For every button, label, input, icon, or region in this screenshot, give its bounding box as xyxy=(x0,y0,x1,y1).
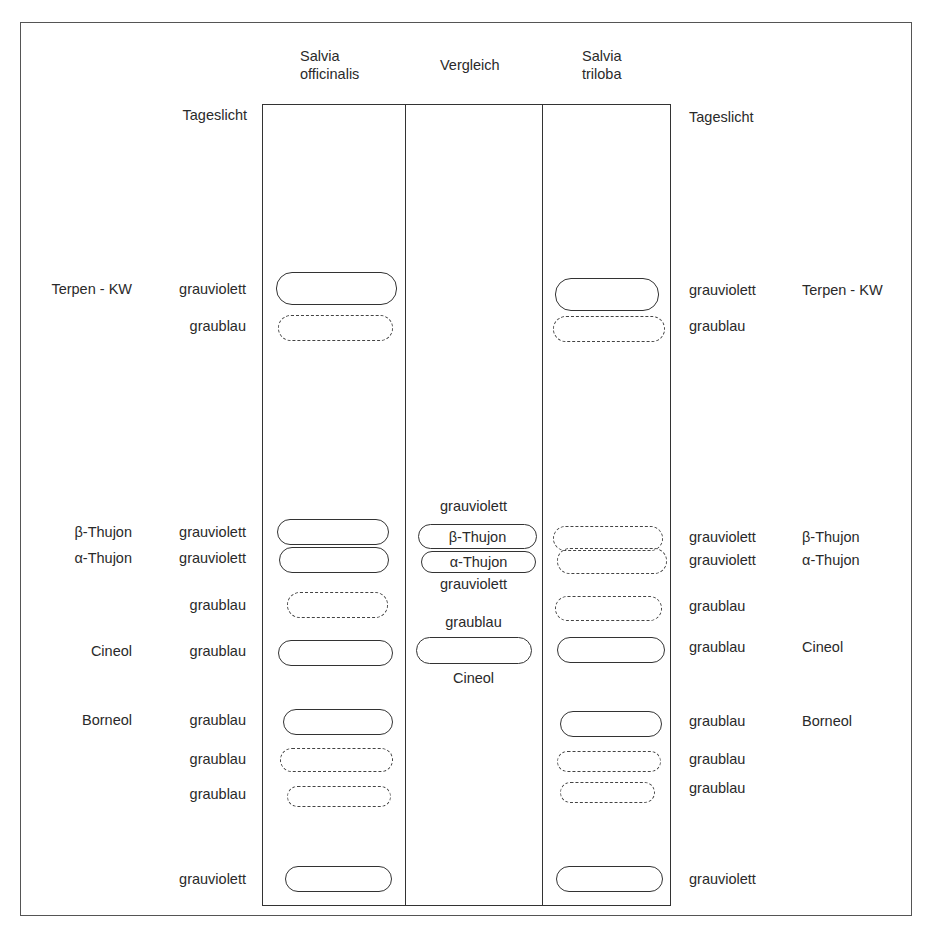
color-label-right-2: graublau xyxy=(689,318,745,335)
lane-header-officinalis-line2: officinalis xyxy=(300,66,359,83)
color-label-left-3: grauviolett xyxy=(140,524,246,541)
lane-header-triloba-line1: Salvia xyxy=(582,48,622,65)
color-label-left-2: graublau xyxy=(140,318,246,335)
substance-terpen-right: Terpen - KW xyxy=(802,282,883,299)
reference-spot-beta-thujon: β-Thujon xyxy=(418,524,537,549)
color-label-right-7: graublau xyxy=(689,713,745,730)
color-label-right-8: graublau xyxy=(689,751,745,768)
spot-triloba-graublau-2 xyxy=(555,596,662,621)
spot-triloba-grauviolett-bottom xyxy=(556,866,663,892)
reference-spot-alpha-thujon: α-Thujon xyxy=(421,551,536,573)
substance-cineol-left: Cineol xyxy=(20,643,132,660)
detection-label-left: Tageslicht xyxy=(130,107,247,124)
color-label-left-1: grauviolett xyxy=(140,281,246,298)
spot-officinalis-graublau-2 xyxy=(287,592,388,618)
lane-header-triloba-line2: triloba xyxy=(582,66,622,83)
spot-triloba-borneol xyxy=(560,711,662,737)
spot-officinalis-graublau-4 xyxy=(287,786,391,807)
detection-label-right: Tageslicht xyxy=(689,109,753,126)
substance-beta-thujon-right: β-Thujon xyxy=(802,529,860,546)
spot-officinalis-alpha-thujon xyxy=(279,547,389,573)
color-label-right-9: graublau xyxy=(689,780,745,797)
lane-divider-2 xyxy=(542,104,543,906)
reference-label-above: grauviolett xyxy=(405,498,542,515)
lane-header-officinalis-line1: Salvia xyxy=(300,48,340,65)
spot-officinalis-borneol xyxy=(283,709,393,735)
reference-cineol-label: Cineol xyxy=(405,670,542,687)
reference-spot-cineol xyxy=(416,637,532,664)
spot-triloba-graublau-4 xyxy=(560,782,655,803)
substance-terpen-left: Terpen - KW xyxy=(20,281,132,298)
substance-borneol-left: Borneol xyxy=(20,712,132,729)
color-label-right-3: grauviolett xyxy=(689,529,756,546)
color-label-right-10: grauviolett xyxy=(689,871,756,888)
color-label-left-5: graublau xyxy=(140,597,246,614)
spot-officinalis-terpen xyxy=(276,272,397,305)
color-label-left-9: graublau xyxy=(140,786,246,803)
substance-alpha-thujon-right: α-Thujon xyxy=(802,552,860,569)
spot-officinalis-grauviolett-bottom xyxy=(285,866,392,892)
color-label-left-7: graublau xyxy=(140,712,246,729)
color-label-left-8: graublau xyxy=(140,751,246,768)
reference-label-below: grauviolett xyxy=(405,576,542,593)
spot-triloba-alpha-thujon xyxy=(557,548,667,574)
color-label-right-1: grauviolett xyxy=(689,282,756,299)
reference-spot-alpha-thujon-label: α-Thujon xyxy=(450,554,508,570)
spot-officinalis-graublau-1 xyxy=(278,315,393,341)
spot-officinalis-cineol xyxy=(278,640,393,666)
color-label-left-6: graublau xyxy=(140,643,246,660)
substance-borneol-right: Borneol xyxy=(802,713,852,730)
spot-officinalis-beta-thujon xyxy=(277,519,389,545)
color-label-right-4: grauviolett xyxy=(689,552,756,569)
spot-triloba-terpen xyxy=(555,278,659,311)
substance-cineol-right: Cineol xyxy=(802,639,843,656)
substance-alpha-thujon-left: α-Thujon xyxy=(20,550,132,567)
color-label-right-5: graublau xyxy=(689,598,745,615)
color-label-left-4: grauviolett xyxy=(140,550,246,567)
spot-triloba-graublau-3 xyxy=(557,751,661,772)
color-label-left-10: grauviolett xyxy=(140,871,246,888)
spot-officinalis-graublau-3 xyxy=(280,748,393,772)
substance-beta-thujon-left: β-Thujon xyxy=(20,524,132,541)
color-label-right-6: graublau xyxy=(689,639,745,656)
reference-spot-beta-thujon-label: β-Thujon xyxy=(449,529,507,545)
spot-triloba-cineol xyxy=(557,637,665,663)
reference-cineol-color: graublau xyxy=(405,614,542,631)
spot-triloba-graublau-1 xyxy=(553,316,665,342)
lane-header-reference: Vergleich xyxy=(440,57,500,74)
